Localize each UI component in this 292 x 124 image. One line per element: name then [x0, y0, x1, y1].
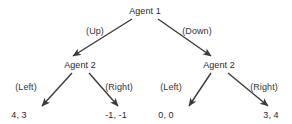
edge-label-right-subtree-left: (Left): [160, 82, 182, 93]
edge-left-left: [42, 73, 72, 106]
edge-root-up: [73, 19, 132, 56]
node-label-left-agent2: Agent 2: [64, 60, 96, 71]
payoff-right-right: 3, 4: [263, 110, 278, 121]
game-tree-diagram: Agent 1 Agent 2 Agent 2 (Up) (Down) (Lef…: [0, 0, 292, 124]
edge-label-left-subtree-right: (Right): [105, 82, 133, 93]
edge-label-right-subtree-right: (Right): [250, 82, 278, 93]
payoff-left-right: -1, -1: [105, 110, 127, 121]
edge-root-down: [158, 19, 211, 56]
edge-label-left-subtree-left: (Left): [15, 82, 37, 93]
edge-label-up: (Up): [86, 26, 104, 37]
node-label-root: Agent 1: [129, 6, 161, 17]
payoff-left-left: 4, 3: [11, 110, 26, 121]
edge-label-down: (Down): [182, 26, 212, 37]
edge-right-left: [189, 73, 211, 106]
tree-edges-layer: [0, 0, 292, 124]
payoff-right-left: 0, 0: [158, 110, 173, 121]
node-label-right-agent2: Agent 2: [203, 60, 235, 71]
